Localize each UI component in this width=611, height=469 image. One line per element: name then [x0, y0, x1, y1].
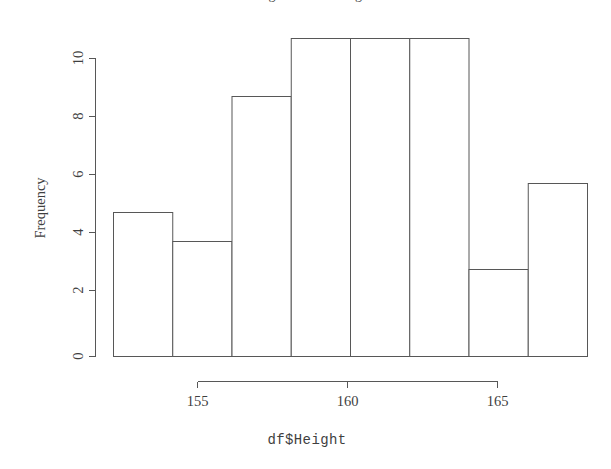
y-axis-tick-label-6: 6 — [70, 170, 86, 177]
y-axis-tick-label-2: 2 — [70, 286, 86, 293]
histogram-bar — [173, 242, 232, 357]
histogram-bars — [114, 39, 588, 357]
y-axis-tick-label-10: 10 — [70, 51, 86, 66]
histogram-bar — [232, 97, 291, 357]
histogram-bar — [291, 39, 350, 357]
x-axis-tick-label-165: 165 — [487, 393, 509, 409]
x-axis-tick-label-160: 160 — [337, 393, 359, 409]
histogram-bar — [410, 39, 469, 357]
y-axis-title: Frequency — [32, 177, 48, 239]
histogram-bar — [528, 184, 587, 357]
y-axis: 10 8 6 4 2 0 Frequency — [32, 51, 95, 360]
y-axis-tick-label-4: 4 — [70, 228, 86, 236]
histogram-plot: 10 8 6 4 2 0 Frequency 155 160 165 df$He… — [0, 0, 611, 469]
x-axis-title: df$Height — [267, 432, 346, 448]
y-axis-tick-label-0: 0 — [70, 352, 86, 359]
y-axis-tick-label-8: 8 — [70, 112, 86, 119]
histogram-bar — [114, 213, 173, 357]
x-axis: 155 160 165 df$Height — [187, 382, 509, 449]
x-axis-tick-label-155: 155 — [187, 393, 209, 409]
histogram-bar — [351, 39, 410, 357]
histogram-bar — [469, 270, 528, 357]
